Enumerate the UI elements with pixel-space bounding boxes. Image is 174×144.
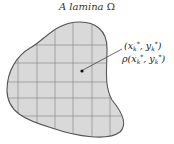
lamina-diagram [0,0,174,144]
sample-point [80,69,83,72]
density-label: ρ(xk*, yk*) [122,51,165,68]
